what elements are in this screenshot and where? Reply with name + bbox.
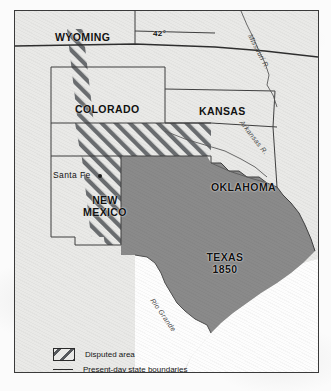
legend-label-disputed-area: Disputed area <box>85 350 135 359</box>
line-swatch-icon <box>53 369 73 370</box>
state-label-new-mexico: NEW MEXICO <box>77 194 133 218</box>
city-marker-santa-fe <box>98 174 102 178</box>
state-label-colorado: COLORADO <box>75 103 139 115</box>
map-figure: WYOMING COLORADO KANSAS OKLAHOMA NEW MEX… <box>0 0 331 391</box>
state-label-new-mexico-line1: NEW <box>77 194 133 206</box>
legend-label-state-boundaries: Present-day state boundaries <box>83 365 188 373</box>
legend-item-disputed-area: Disputed area <box>53 347 188 362</box>
state-label-texas-1850: TEXAS 1850 <box>197 251 253 275</box>
state-label-kansas: KANSAS <box>199 105 246 117</box>
city-label-santa-fe: Santa Fe <box>53 170 91 180</box>
legend-item-state-boundaries: Present-day state boundaries <box>53 362 188 373</box>
disputed-area-horizontal-band <box>75 123 211 156</box>
state-label-wyoming: WYOMING <box>55 31 110 43</box>
latitude-label-42: 42° <box>153 29 166 38</box>
state-label-oklahoma: OKLAHOMA <box>211 181 276 193</box>
hatch-swatch-icon <box>53 348 75 361</box>
map-legend: Disputed area Present-day state boundari… <box>53 347 188 373</box>
state-label-new-mexico-line2: MEXICO <box>77 206 133 218</box>
texas-label-line1: TEXAS <box>197 251 253 263</box>
texas-label-line2: 1850 <box>197 263 253 275</box>
map-frame: WYOMING COLORADO KANSAS OKLAHOMA NEW MEX… <box>14 10 319 373</box>
